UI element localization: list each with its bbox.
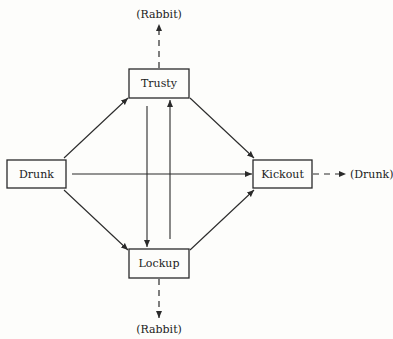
external-label-top-rabbit: (Rabbit) — [136, 8, 182, 21]
edge-drunk-to-trusty — [64, 98, 128, 158]
node-drunk-label: Drunk — [19, 168, 54, 181]
node-trusty: Trusty — [129, 69, 189, 98]
state-diagram: Trusty Drunk Kickout Lockup (Rabbit) (Ra… — [0, 0, 393, 339]
node-lockup: Lockup — [129, 249, 189, 278]
node-lockup-label: Lockup — [139, 257, 180, 270]
node-drunk: Drunk — [7, 160, 66, 188]
node-trusty-label: Trusty — [141, 77, 178, 90]
edge-trusty-to-kickout — [190, 98, 254, 158]
external-label-right-drunk: (Drunk) — [350, 168, 393, 181]
node-kickout-label: Kickout — [261, 168, 304, 181]
external-label-bottom-rabbit: (Rabbit) — [136, 323, 182, 336]
node-kickout: Kickout — [253, 160, 312, 188]
edge-drunk-to-lockup — [64, 190, 128, 250]
edge-lockup-to-kickout — [190, 190, 254, 250]
